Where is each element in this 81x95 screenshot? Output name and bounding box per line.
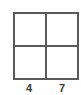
grid-cell-r1-c1 <box>47 47 77 78</box>
column-label-1: 4 <box>19 83 39 94</box>
grid-cell-r0-c0 <box>15 14 45 45</box>
column-label-2: 7 <box>52 83 72 94</box>
grid-cell-r1-c0 <box>15 47 45 78</box>
grid-cell-r0-c1 <box>47 14 77 45</box>
